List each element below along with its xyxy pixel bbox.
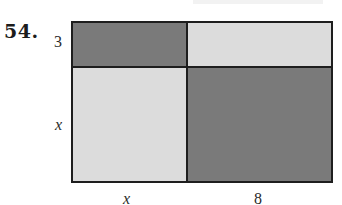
label-width-8: 8 (254, 191, 262, 205)
horizontal-divider (73, 66, 331, 68)
region-top-left-dark (73, 23, 186, 66)
area-model-rectangle (71, 21, 333, 183)
region-bottom-left-light (73, 68, 186, 181)
problem-number: 54. (4, 20, 39, 42)
label-height-3: 3 (54, 34, 62, 50)
label-height-x: x (55, 117, 62, 133)
faint-text-remnant (193, 0, 323, 4)
region-bottom-right-dark (188, 68, 331, 181)
region-top-right-light (188, 23, 331, 66)
label-width-x: x (123, 191, 130, 205)
vertical-divider (186, 23, 188, 181)
